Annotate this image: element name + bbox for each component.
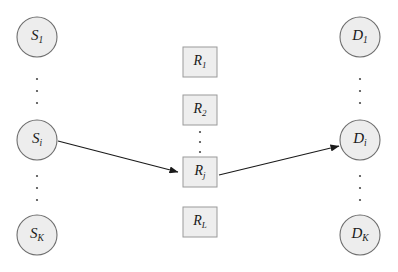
ellipsis-dot-sources0-0 [36,78,38,80]
destination-column: D1DiDK [340,17,380,255]
relay-node-R2[interactable]: R2 [183,95,217,125]
destination-node-Di[interactable]: Di [340,120,380,160]
edge-rj-di [219,146,339,175]
relay-node-R1[interactable]: R1 [183,47,217,77]
ellipsis-dot-destinations1-1 [359,187,361,189]
ellipsis-dot-relays0-1 [199,141,201,143]
ellipsis-dot-sources0-2 [36,102,38,104]
relay-node-RL[interactable]: RL [183,207,217,237]
ellipsis-dot-relays0-2 [199,151,201,153]
ellipsis-dot-destinations1-2 [359,199,361,201]
relay-node-Rj[interactable]: Rj [183,157,217,187]
ellipsis-dot-relays0-0 [199,131,201,133]
source-node-S1[interactable]: S1 [17,17,57,57]
ellipsis-dot-destinations0-0 [359,78,361,80]
source-column: S1SiSK [17,17,57,255]
ellipsis-dot-destinations0-1 [359,90,361,92]
ellipsis-dot-sources1-1 [36,187,38,189]
source-node-Si[interactable]: Si [17,120,57,160]
ellipsis-dot-destinations0-2 [359,102,361,104]
diagram-canvas: S1SiSK R1R2RjRL D1DiDK [0,0,398,272]
ellipsis-dot-sources0-1 [36,90,38,92]
ellipsis-dot-sources1-0 [36,175,38,177]
edge-si-rj [58,141,178,172]
source-node-SK[interactable]: SK [17,215,57,255]
ellipsis-dot-sources1-2 [36,199,38,201]
ellipsis-dot-destinations1-0 [359,175,361,177]
destination-node-D1[interactable]: D1 [340,17,380,57]
destination-node-DK[interactable]: DK [340,215,380,255]
relay-column: R1R2RjRL [183,47,217,237]
diagram-svg: S1SiSK R1R2RjRL D1DiDK [0,0,398,272]
